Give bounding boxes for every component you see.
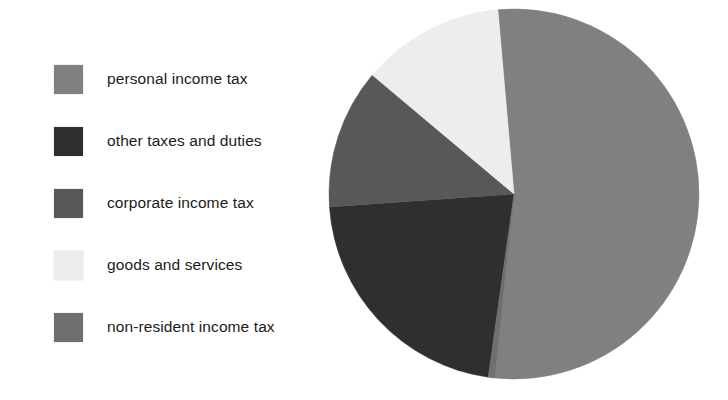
- legend-item-label: other taxes and duties: [107, 132, 262, 150]
- legend-item-label: goods and services: [107, 256, 242, 274]
- pie-svg: [328, 8, 700, 380]
- legend-swatch-icon: [54, 189, 83, 218]
- pie-chart-figure: personal income tax other taxes and duti…: [0, 0, 728, 400]
- legend-item-label: personal income tax: [107, 70, 248, 88]
- pie-plot-area: [328, 8, 700, 380]
- legend-swatch-icon: [54, 65, 83, 94]
- pie-slice[interactable]: [495, 9, 699, 379]
- legend-item-personal-income-tax[interactable]: personal income tax: [54, 48, 324, 110]
- legend-swatch-icon: [54, 313, 83, 342]
- legend-swatch-icon: [54, 251, 83, 280]
- legend-item-label: corporate income tax: [107, 194, 254, 212]
- legend-item-other-taxes-and-duties[interactable]: other taxes and duties: [54, 110, 324, 172]
- legend-item-goods-and-services[interactable]: goods and services: [54, 234, 324, 296]
- legend-item-non-resident-income-tax[interactable]: non-resident income tax: [54, 296, 324, 358]
- legend-swatch-icon: [54, 127, 83, 156]
- pie-slices-group: [329, 9, 699, 379]
- legend-item-label: non-resident income tax: [107, 318, 275, 336]
- legend-item-corporate-income-tax[interactable]: corporate income tax: [54, 172, 324, 234]
- pie-slice[interactable]: [329, 194, 514, 377]
- chart-legend: personal income tax other taxes and duti…: [54, 48, 324, 358]
